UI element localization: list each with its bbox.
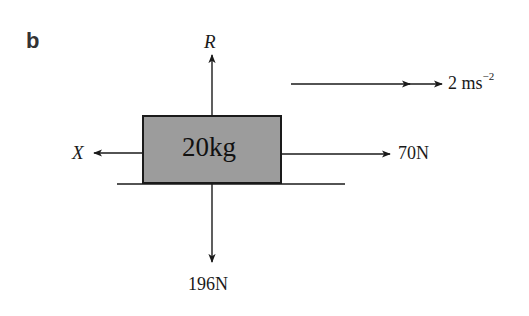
acceleration-value: 2 ms [448,73,483,93]
reaction-label: R [204,31,216,53]
weight-label: 196N [188,274,228,295]
acceleration-label: 2 ms−2 [448,73,494,94]
applied-force-label: 70N [398,143,429,164]
mass-label: 20kg [182,132,236,163]
friction-label: X [72,142,84,164]
acceleration-exponent: −2 [483,70,495,82]
